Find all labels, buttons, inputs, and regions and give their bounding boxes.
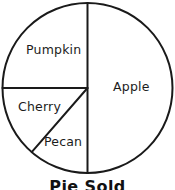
slice-label-apple: Apple (113, 81, 150, 94)
pie-chart-graphic (0, 0, 175, 190)
slice-label-cherry: Cherry (18, 101, 61, 114)
pie-chart-figure: Pumpkin Apple Cherry Pecan Pie Sold (0, 0, 175, 190)
slice-label-pecan: Pecan (44, 136, 82, 149)
slice-label-pumpkin: Pumpkin (26, 44, 81, 57)
chart-title: Pie Sold (0, 179, 175, 190)
